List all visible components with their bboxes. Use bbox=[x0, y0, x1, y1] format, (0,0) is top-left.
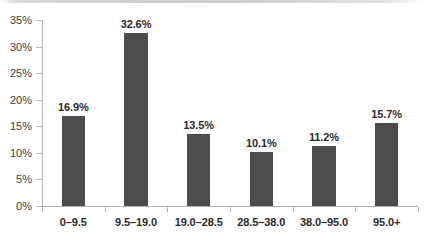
y-tick-label: 30% bbox=[0, 41, 32, 53]
y-tick-label: 15% bbox=[0, 120, 32, 132]
x-tick-mark bbox=[418, 207, 419, 212]
x-tick-mark bbox=[355, 207, 356, 212]
scan-artifact bbox=[0, 0, 424, 3]
plot-area: 16.9% 32.6% 13.5% 10.1% 11.2% 15.7% bbox=[42, 20, 418, 206]
x-category-label: 28.5–38.0 bbox=[230, 216, 293, 228]
x-category-label: 19.0–28.5 bbox=[167, 216, 230, 228]
y-tick-label: 35% bbox=[0, 14, 32, 26]
x-tick-mark bbox=[167, 207, 168, 212]
x-tick-mark bbox=[293, 207, 294, 212]
bar-value-label: 11.2% bbox=[293, 131, 356, 143]
y-tick-label: 25% bbox=[0, 67, 32, 79]
bar[interactable] bbox=[62, 116, 86, 206]
y-tick-label: 10% bbox=[0, 147, 32, 159]
bar-group: 10.1% bbox=[230, 20, 293, 206]
bar[interactable] bbox=[375, 123, 399, 206]
bar-value-label: 10.1% bbox=[230, 137, 293, 149]
bar-chart: 0% 5% 10% 15% 20% 25% 30% 35% 16.9% 32.6… bbox=[0, 0, 424, 245]
y-axis-labels: 0% 5% 10% 15% 20% 25% 30% 35% bbox=[0, 20, 36, 206]
bar[interactable] bbox=[312, 146, 336, 206]
bar-value-label: 16.9% bbox=[42, 101, 105, 113]
bar-group: 15.7% bbox=[355, 20, 418, 206]
bar-group: 16.9% bbox=[42, 20, 105, 206]
bar-value-label: 13.5% bbox=[167, 119, 230, 131]
bar[interactable] bbox=[250, 152, 274, 206]
bar-group: 32.6% bbox=[105, 20, 168, 206]
x-tick-mark bbox=[105, 207, 106, 212]
y-tick-label: 0% bbox=[0, 200, 32, 212]
bar-group: 11.2% bbox=[293, 20, 356, 206]
x-category-label: 95.0+ bbox=[355, 216, 418, 228]
bar-value-label: 15.7% bbox=[355, 108, 418, 120]
x-category-label: 38.0–95.0 bbox=[293, 216, 356, 228]
x-tick-mark bbox=[42, 207, 43, 212]
y-tick-label: 20% bbox=[0, 94, 32, 106]
bar[interactable] bbox=[124, 33, 148, 206]
y-tick-label: 5% bbox=[0, 173, 32, 185]
bar-group: 13.5% bbox=[167, 20, 230, 206]
x-category-label: 0–9.5 bbox=[42, 216, 105, 228]
x-category-label: 9.5–19.0 bbox=[105, 216, 168, 228]
bar[interactable] bbox=[187, 134, 211, 206]
x-tick-mark bbox=[230, 207, 231, 212]
bar-value-label: 32.6% bbox=[105, 18, 168, 30]
